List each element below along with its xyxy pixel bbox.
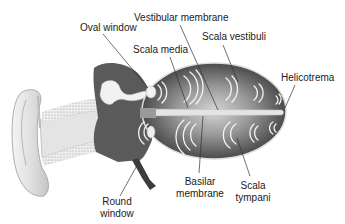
label-scala-vestibuli: Scala vestibuli: [202, 31, 266, 43]
label-basilar-membrane-line2: membrane: [172, 188, 228, 200]
label-scala-media: Scala media: [133, 44, 188, 56]
label-round-window-line1: Round: [95, 196, 139, 208]
outer-ear: [12, 90, 106, 197]
label-vestibular-membrane: Vestibular membrane: [134, 12, 229, 24]
label-round-window-line2: window: [95, 208, 139, 220]
label-oval-window: Oval window: [80, 22, 137, 34]
label-round-window: Round window: [95, 196, 139, 220]
leader-helicotrema: [285, 85, 295, 108]
label-basilar-membrane-line1: Basilar: [172, 176, 228, 188]
label-scala-tympani-line1: Scala: [228, 180, 278, 192]
label-basilar-membrane: Basilar membrane: [172, 176, 228, 200]
label-scala-tympani-line2: tympani: [228, 192, 278, 204]
label-scala-tympani: Scala tympani: [228, 180, 278, 204]
cochlea: [140, 63, 286, 159]
cochlea-diagram: Oval window Vestibular membrane Scala ve…: [0, 0, 345, 224]
label-helicotrema: Helicotrema: [281, 72, 334, 84]
leader-round-window: [120, 160, 140, 196]
